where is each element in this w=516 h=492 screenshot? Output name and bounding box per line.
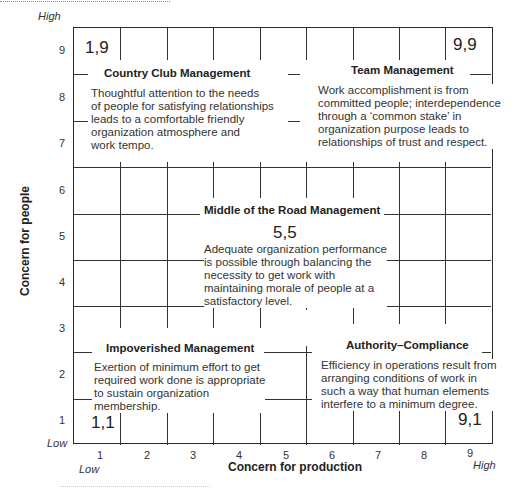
authority-compliance-title: Authority–Compliance [342,339,473,351]
x-tick-7: 7 [375,449,381,461]
x-tick-3: 3 [190,449,196,461]
y-axis-high-label: High [38,10,61,22]
bottom-faint-rule [60,486,210,487]
y-tick-1: 1 [59,414,65,426]
x-axis-high-label: High [473,459,496,471]
x-tick-1: 1 [97,449,103,461]
y-tick-8: 8 [59,91,65,103]
x-tick-2: 2 [144,449,150,461]
coord-9-1: 9,1 [458,410,482,430]
team-title: Team Management [347,64,458,76]
x-tick-9: 9 [467,447,473,459]
impoverished-text: Exertion of minimum effort to get requir… [94,361,265,413]
x-axis-title: Concern for production [228,460,362,474]
country-club-title: Country Club Management [100,67,254,79]
y-tick-3: 3 [59,322,65,334]
y-tick-9: 9 [59,44,65,56]
coord-5-5: 5,5 [273,223,297,243]
y-tick-4: 4 [59,276,65,288]
middle-road-text: Adequate organization performance is pos… [204,243,387,308]
impoverished-title: Impoverished Management [102,342,258,354]
x-tick-8: 8 [421,449,427,461]
team-text: Work accomplishment is from committed pe… [318,84,501,149]
x-axis-low-label: Low [79,463,99,475]
coord-1-1: 1,1 [91,413,115,433]
middle-road-title: Middle of the Road Management [200,204,384,216]
y-axis-title: Concern for people [18,186,32,296]
country-club-text: Thoughtful attention to the needs of peo… [91,87,274,152]
y-tick-2: 2 [59,368,65,380]
y-tick-6: 6 [59,184,65,196]
coord-1-9: 1,9 [85,38,109,58]
coord-9-9: 9,9 [453,35,477,55]
grid-hline [74,167,491,168]
y-axis-low-label: Low [47,437,67,449]
y-tick-5: 5 [59,230,65,242]
mask-gap [274,310,312,346]
y-tick-7: 7 [59,137,65,149]
authority-compliance-text: Efficiency in operations result from arr… [321,359,497,411]
top-dotted-rule [0,1,170,2]
